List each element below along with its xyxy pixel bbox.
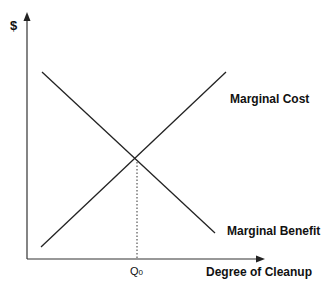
- chart: $ Marginal Cost Marginal Benefit Degree …: [0, 0, 333, 286]
- q0-tick-label: Q0: [130, 265, 143, 277]
- chart-plot: [0, 0, 333, 286]
- y-axis-arrow-icon: [24, 12, 31, 21]
- marginal-benefit-line: [42, 72, 215, 233]
- marginal-cost-label: Marginal Cost: [230, 92, 309, 106]
- q0-subscript: 0: [139, 268, 143, 277]
- marginal-benefit-label: Marginal Benefit: [227, 224, 320, 238]
- x-axis-arrow-icon: [256, 256, 265, 263]
- marginal-cost-line: [41, 72, 226, 247]
- q0-main: Q: [130, 265, 139, 277]
- y-axis-label: $: [10, 18, 17, 33]
- x-axis-label: Degree of Cleanup: [206, 265, 312, 279]
